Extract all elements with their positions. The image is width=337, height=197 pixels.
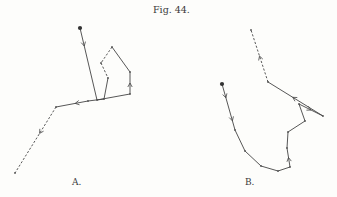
path-segment [288,121,305,132]
path-segment [104,78,108,99]
path-vertex [96,99,98,101]
path-vertex [14,172,16,174]
figure-drawing [0,0,337,197]
start-point [78,26,82,30]
path-vertex [107,77,109,79]
panel-a-path [14,26,132,174]
path-segment [245,151,261,166]
path-vertex [87,100,89,102]
path-vertex [103,98,105,100]
direction-arrow-icon [259,56,263,60]
path-vertex [277,170,279,172]
start-point [220,82,224,86]
path-segment [261,166,278,171]
path-segment [268,82,323,116]
path-vertex [304,120,306,122]
path-vertex [260,165,262,167]
path-segment [101,63,108,78]
direction-arrow-icon [40,129,44,134]
path-vertex [250,29,252,31]
path-segment [80,28,97,100]
path-segment [287,132,288,148]
path-vertex [100,62,102,64]
path-vertex [267,81,269,83]
path-vertex [289,166,291,168]
path-vertex [287,131,289,133]
path-vertex [55,106,57,108]
path-segment [235,130,245,151]
panel-b-path [220,29,324,172]
path-vertex [111,46,113,48]
path-vertex [129,71,131,73]
path-segment [56,101,88,107]
path-segment [101,47,112,63]
path-segment [278,167,290,171]
path-vertex [322,115,324,117]
path-segment [88,99,104,101]
path-segment [222,84,235,130]
path-vertex [234,129,236,131]
path-segment [112,47,130,72]
path-segment [15,107,56,173]
path-vertex [129,93,131,95]
path-vertex [244,150,246,152]
path-vertex [286,147,288,149]
path-vertex [298,103,300,105]
